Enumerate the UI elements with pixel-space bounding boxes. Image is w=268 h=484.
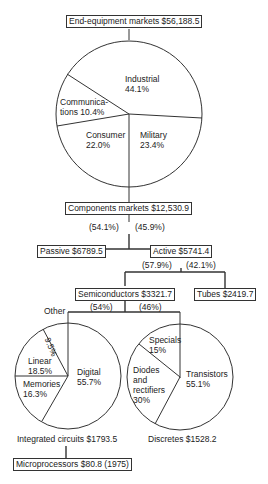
microprocessors-box: Microprocessors $80.8 (1975) — [13, 458, 132, 471]
passive-box: Passive $6789.5 — [37, 245, 106, 258]
slice-value: 16.3% — [23, 389, 60, 399]
slice-communications-label: Communica- tions 10.4% — [60, 97, 108, 117]
slice-value: 55.1% — [186, 379, 228, 389]
slice-digital-label: Digital 55.7% — [77, 367, 101, 387]
slice-value: and — [133, 375, 165, 385]
semiconductors-box: Semiconductors $3321.7 — [75, 288, 175, 301]
tubes-box: Tubes $2419.7 — [194, 288, 256, 301]
slice-name: Digital — [77, 367, 101, 377]
slice-consumer-label: Consumer 22.0% — [86, 130, 125, 150]
slice-military-label: Military 23.4% — [140, 130, 167, 150]
components-markets-box: Components markets $12,530.9 — [65, 202, 192, 215]
active-pct: (45.9%) — [135, 222, 165, 232]
tubes-pct: (42.1%) — [186, 260, 216, 270]
ic-pct: (54%) — [90, 302, 113, 312]
slice-value: 18.5% — [28, 366, 52, 376]
slice-value: 23.4% — [140, 140, 167, 150]
slice-transistors-label: Transistors 55.1% — [186, 369, 228, 389]
slice-name: Military — [140, 130, 167, 140]
slice-name: Diodes — [133, 365, 165, 375]
discretes-pct: (46%) — [139, 302, 162, 312]
slice-name: Transistors — [186, 369, 228, 379]
other-label: Other — [44, 306, 65, 316]
slice-name: Specials — [149, 335, 181, 345]
ic-caption: Integrated circuits $1793.5 — [17, 434, 117, 444]
slice-name: Communica- — [60, 97, 108, 107]
semiconductors-pct: (57.9%) — [142, 260, 172, 270]
slice-memories-label: Memories 16.3% — [23, 379, 60, 399]
slice-diodes-label: Diodes and rectifiers 30% — [133, 365, 165, 405]
slice-industrial-label: Industrial 44.1% — [125, 74, 160, 94]
slice-name: Linear — [28, 356, 52, 366]
slice-specials-label: Specials 15% — [149, 335, 181, 355]
active-box: Active $5741.4 — [150, 245, 212, 258]
end-equipment-markets-box: End-equipment markets $56,188.5 — [66, 15, 202, 28]
slice-name: Consumer — [86, 130, 125, 140]
slice-linear-label: Linear 18.5% — [28, 356, 52, 376]
slice-value: 15% — [149, 345, 181, 355]
slice-value: 44.1% — [125, 84, 160, 94]
passive-pct: (54.1%) — [89, 222, 119, 232]
slice-value: tions 10.4% — [60, 107, 108, 117]
slice-name-cont: rectifiers — [133, 385, 165, 395]
slice-name: Memories — [23, 379, 60, 389]
slice-value: 22.0% — [86, 140, 125, 150]
slice-value: 30% — [133, 395, 165, 405]
slice-value: 55.7% — [77, 377, 101, 387]
diagram-lines — [0, 0, 268, 484]
discretes-caption: Discretes $1528.2 — [148, 434, 217, 444]
slice-name: Industrial — [125, 74, 160, 84]
